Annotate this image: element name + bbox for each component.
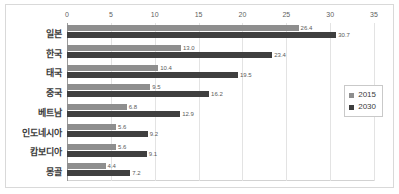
legend-item: 2015 (349, 89, 376, 101)
bar-2015: 5.6 (67, 144, 116, 150)
bar-2015: 4.4 (67, 163, 106, 169)
category-label: 인도네시아 (22, 125, 62, 138)
bar-2030: 19.5 (67, 72, 238, 78)
bar-value-label: 5.6 (118, 143, 126, 150)
bar-value-label: 26.4 (301, 25, 313, 32)
bar-2030: 9.1 (67, 151, 147, 157)
bar-value-label: 5.6 (118, 123, 126, 130)
bar-value-label: 9.5 (152, 84, 160, 91)
chart-row: 중국9.516.2 (67, 82, 374, 102)
legend-swatch-icon (349, 93, 354, 98)
bar-2030: 30.7 (67, 32, 336, 38)
chart-row: 한국13.023.4 (67, 43, 374, 63)
x-axis-tick-label: 15 (195, 9, 203, 20)
bar-value-label: 30.7 (338, 32, 350, 39)
bar-2015: 26.4 (67, 25, 299, 31)
bar-value-label: 4.4 (108, 163, 116, 170)
x-axis-tick-label: 35 (370, 9, 378, 20)
chart-row: 베트남6.812.9 (67, 102, 374, 122)
legend-item: 2030 (349, 101, 376, 113)
bar-value-label: 9.2 (150, 130, 158, 137)
category-label: 베트남 (38, 105, 62, 118)
chart-legend: 20152030 (344, 85, 383, 117)
legend-swatch-icon (349, 105, 354, 110)
chart-row: 일본26.430.7 (67, 23, 374, 43)
x-axis-tick-label: 20 (239, 9, 247, 20)
legend-label: 2015 (358, 90, 376, 100)
bar-value-label: 10.4 (160, 64, 172, 71)
bar-2015: 9.5 (67, 84, 150, 90)
chart-row: 캄보디아5.69.1 (67, 142, 374, 162)
bar-value-label: 9.1 (149, 150, 157, 157)
bar-2015: 5.6 (67, 124, 116, 130)
bar-2030: 16.2 (67, 91, 209, 97)
x-axis-tick-label: 10 (151, 9, 159, 20)
bar-2030: 7.2 (67, 170, 130, 176)
bar-value-label: 7.2 (132, 170, 140, 177)
bar-value-label: 13.0 (183, 44, 195, 51)
plot-area: 일본26.430.7한국13.023.4태국10.419.5중국9.516.2베… (67, 23, 374, 181)
chart-container: 05101520253035 일본26.430.7한국13.023.4태국10.… (5, 4, 394, 188)
chart-row: 인도네시아5.69.2 (67, 122, 374, 142)
bar-2030: 23.4 (67, 52, 272, 58)
bar-value-label: 23.4 (274, 51, 286, 58)
bar-2015: 6.8 (67, 104, 127, 110)
x-axis-tick-label: 0 (65, 9, 69, 20)
chart-row: 몽골4.47.2 (67, 161, 374, 181)
x-axis-tick-label: 25 (282, 9, 290, 20)
x-axis-tick-label: 30 (326, 9, 334, 20)
bar-value-label: 12.9 (182, 111, 194, 118)
chart-row: 태국10.419.5 (67, 63, 374, 83)
bar-2030: 9.2 (67, 131, 148, 137)
category-label: 한국 (46, 46, 62, 59)
category-label: 일본 (46, 26, 62, 39)
category-label: 태국 (46, 66, 62, 79)
legend-label: 2030 (358, 102, 376, 112)
bar-value-label: 6.8 (129, 104, 137, 111)
x-axis-tick-label: 5 (109, 9, 113, 20)
bar-2015: 10.4 (67, 65, 158, 71)
bar-2030: 12.9 (67, 111, 180, 117)
category-label: 몽골 (46, 165, 62, 178)
bar-value-label: 19.5 (240, 71, 252, 78)
x-axis-tick-labels: 05101520253035 (67, 9, 374, 23)
category-label: 캄보디아 (30, 145, 62, 158)
category-label: 중국 (46, 86, 62, 99)
bar-2015: 13.0 (67, 45, 181, 51)
bar-value-label: 16.2 (211, 91, 223, 98)
